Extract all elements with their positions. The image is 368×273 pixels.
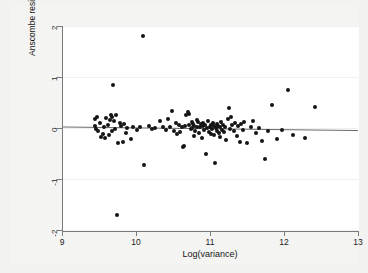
x-tick-mark <box>284 231 285 236</box>
y-tick-label-text: -2 <box>50 230 59 237</box>
y-tick-label-text: 0 <box>50 128 59 132</box>
x-tick-label: 13 <box>348 237 368 247</box>
data-point <box>113 127 117 131</box>
data-point <box>141 34 145 38</box>
plot-panel <box>62 26 359 230</box>
data-point <box>303 136 307 140</box>
data-point <box>280 128 284 132</box>
data-point <box>223 125 227 129</box>
data-point <box>204 152 208 156</box>
data-point <box>129 137 133 141</box>
data-point <box>275 137 279 141</box>
data-point <box>270 103 274 107</box>
x-tick-mark <box>358 231 359 236</box>
data-point <box>235 134 239 138</box>
data-point <box>238 140 242 144</box>
data-point <box>224 138 228 142</box>
data-point <box>164 128 168 132</box>
data-point <box>254 131 258 135</box>
data-point <box>182 144 186 148</box>
data-point <box>257 126 261 130</box>
y-tick-label-text: 2 <box>50 26 59 30</box>
y-axis-line <box>62 26 63 231</box>
y-tick-label-text: 1 <box>50 77 59 81</box>
x-tick-mark <box>62 231 63 236</box>
x-tick-label: 10 <box>126 237 146 247</box>
plot-canvas: -2-1012 910111213 Anscombe residual Log(… <box>10 6 358 264</box>
y-axis-title: Anscombe residual <box>27 0 37 56</box>
y-tick-label: -2 <box>40 225 54 235</box>
x-tick-label: 9 <box>52 237 72 247</box>
y-tick-label: 0 <box>40 123 54 133</box>
chart-screenshot: -2-1012 910111213 Anscombe residual Log(… <box>0 0 368 273</box>
x-tick-label: 11 <box>200 237 220 247</box>
data-point <box>227 106 231 110</box>
data-point <box>200 136 204 140</box>
data-point <box>266 129 270 133</box>
data-point <box>212 133 216 137</box>
data-point <box>95 115 99 119</box>
data-point <box>101 132 105 136</box>
data-point <box>197 131 201 135</box>
data-point <box>131 125 135 129</box>
y-tick-label: -1 <box>40 174 54 184</box>
data-point <box>241 128 245 132</box>
y-tick-label-text: -1 <box>50 179 59 186</box>
data-point <box>168 125 172 129</box>
x-tick-mark <box>210 231 211 236</box>
y-tick-label: 1 <box>40 72 54 82</box>
data-point <box>249 125 253 129</box>
data-point <box>291 133 295 137</box>
x-tick-mark <box>136 231 137 236</box>
x-tick-label: 12 <box>274 237 294 247</box>
data-point <box>124 131 128 135</box>
data-point <box>232 129 236 133</box>
data-point <box>192 134 196 138</box>
data-point <box>170 109 174 113</box>
data-point <box>263 157 267 161</box>
x-axis-title: Log(variance) <box>62 249 358 259</box>
data-point <box>115 213 119 217</box>
data-point <box>187 112 191 116</box>
data-point <box>107 133 111 137</box>
y-tick-label: 2 <box>40 21 54 31</box>
data-point <box>121 140 125 144</box>
